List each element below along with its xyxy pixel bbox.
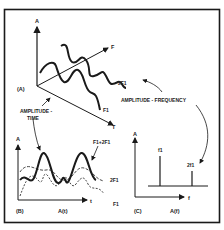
b-axis-label-a: A: [16, 136, 20, 142]
axis-label-f: F: [111, 44, 115, 50]
time-axis: [37, 86, 113, 125]
b-arrow-sum: [92, 146, 98, 160]
label-amplitude-time-1: AMPLITUDE -: [20, 108, 53, 114]
c-axis-label-f: f: [188, 195, 190, 201]
arrow-time-to-b: [33, 119, 40, 150]
wave-label-f1: F1: [103, 107, 109, 113]
axis-label-a: A: [35, 18, 39, 24]
panel-b-tag: (B): [16, 208, 24, 214]
b-label-f1: F1: [113, 201, 119, 207]
c-label-f1: f1: [158, 147, 163, 153]
axis-label-t: T: [112, 124, 116, 130]
panel-c: A f f1 2f1 (C) A(f): [133, 131, 208, 214]
b-label-sum: F1+2F1: [93, 139, 111, 145]
frequency-axis: [37, 48, 108, 86]
curve-f1: [20, 174, 104, 196]
c-label-2f1: 2f1: [187, 162, 194, 168]
b-axis-label-t: t: [90, 198, 92, 204]
panel-a-tag: (A): [17, 86, 25, 92]
b-caption: A(t): [58, 208, 68, 214]
label-amplitude-frequency: AMPLITUDE - FREQUENCY: [121, 97, 187, 103]
panel-c-tag: (C): [134, 208, 142, 214]
c-caption: A(f): [170, 208, 180, 214]
diagram-canvas: A F T (A) 2F1 F1 AMPLITUDE - TIME AMPLIT…: [0, 0, 224, 230]
wave-label-2f1: 2F1: [118, 80, 127, 86]
arrow-to-origin: [42, 98, 50, 106]
wave-2f1: [61, 45, 126, 88]
panel-a: A F T (A) 2F1 F1 AMPLITUDE - TIME AMPLIT…: [17, 18, 208, 163]
panel-b: A t F1+2F1 2F1 F1 (B) A(t): [16, 136, 119, 214]
arrow-freq-to-c: [196, 105, 208, 163]
c-axis-label-a: A: [133, 131, 137, 137]
b-label-2f1: 2F1: [110, 177, 119, 183]
arrow-to-2f1: [143, 80, 162, 92]
